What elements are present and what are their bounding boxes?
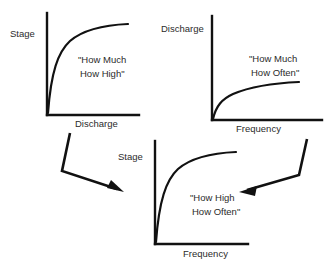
diagram-canvas: Stage Discharge "How Much How High" Disc… <box>0 0 328 271</box>
chart1-y-axis-label: Stage <box>10 28 35 39</box>
chart2-y-axis-label: Discharge <box>161 23 204 34</box>
chart3-annotation-line2: How Often" <box>192 206 240 217</box>
chart-stage-frequency: Stage Frequency "How High How Often" <box>118 141 248 259</box>
arrow-left-shaft <box>62 133 117 189</box>
chart2-annotation-line1: "How Much <box>249 53 297 64</box>
chart2-annotation-line2: How Often" <box>251 67 299 78</box>
arrow-right-head-icon <box>239 186 257 196</box>
chart2-x-axis-label: Frequency <box>236 123 281 134</box>
chart-discharge-frequency: Discharge Frequency "How Much How Often" <box>161 16 322 134</box>
chart3-x-axis-label: Frequency <box>183 248 228 259</box>
chart1-x-axis-label: Discharge <box>75 118 118 129</box>
chart2-curve <box>213 82 299 119</box>
arrow-right <box>239 139 307 196</box>
chart3-y-axis-label: Stage <box>118 151 143 162</box>
arrow-right-shaft <box>247 139 307 190</box>
arrow-left-head-icon <box>107 180 124 192</box>
chart-stage-discharge: Stage Discharge "How Much How High" <box>10 13 139 129</box>
chart3-annotation-line1: "How High <box>190 192 235 203</box>
arrow-left <box>62 133 124 192</box>
hydrology-relationship-diagram: Stage Discharge "How Much How High" Disc… <box>0 0 328 271</box>
chart1-annotation-line1: "How Much <box>78 54 126 65</box>
chart1-annotation-line2: How High" <box>80 68 125 79</box>
